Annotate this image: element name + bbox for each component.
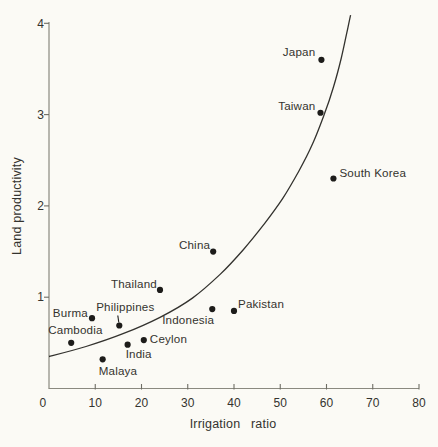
point-label-cambodia: Cambodia bbox=[48, 323, 103, 336]
y-axis-title: Land productivity bbox=[10, 131, 26, 281]
y-tick-label: 2 bbox=[37, 199, 44, 213]
point-label-thailand: Thailand bbox=[111, 277, 157, 290]
x-tick-label: 70 bbox=[366, 396, 380, 410]
data-point-thailand bbox=[157, 287, 163, 293]
data-point-cambodia bbox=[68, 340, 74, 346]
x-tick-label: 30 bbox=[181, 396, 195, 410]
point-label-ceylon: Ceylon bbox=[150, 332, 187, 345]
x-axis-title: Irrigation ratio bbox=[133, 417, 333, 433]
x-tick-label: 80 bbox=[412, 396, 426, 410]
data-point-burma bbox=[89, 315, 95, 321]
data-point-ceylon bbox=[141, 337, 147, 343]
data-point-japan bbox=[318, 57, 324, 63]
point-label-india: India bbox=[126, 347, 152, 360]
point-label-indonesia: Indonesia bbox=[162, 313, 214, 326]
y-tick-label: 3 bbox=[37, 108, 44, 122]
point-label-japan: Japan bbox=[283, 45, 316, 58]
data-point-taiwan bbox=[317, 110, 323, 116]
leader-line-philippines bbox=[118, 316, 119, 323]
point-label-philippines: Philippines bbox=[96, 300, 154, 313]
point-label-malaya: Malaya bbox=[99, 364, 138, 377]
data-point-south-korea bbox=[330, 175, 336, 181]
data-point-indonesia bbox=[209, 306, 215, 312]
y-tick-label: 1 bbox=[37, 290, 44, 304]
point-label-burma: Burma bbox=[53, 306, 88, 319]
x-tick-label: 50 bbox=[273, 396, 287, 410]
scatter-plot: 123401020304050607080JapanTaiwanSouth Ko… bbox=[0, 0, 438, 447]
x-tick-label: 0 bbox=[40, 396, 47, 410]
x-tick-label: 10 bbox=[88, 396, 102, 410]
point-label-taiwan: Taiwan bbox=[278, 99, 315, 112]
point-label-pakistan: Pakistan bbox=[238, 297, 284, 310]
point-label-china: China bbox=[179, 238, 211, 251]
x-tick-label: 20 bbox=[135, 396, 149, 410]
data-point-china bbox=[210, 248, 216, 254]
data-point-pakistan bbox=[231, 308, 237, 314]
y-tick-label: 4 bbox=[37, 17, 44, 31]
data-point-philippines bbox=[116, 322, 122, 328]
data-point-malaya bbox=[100, 356, 106, 362]
scatter-figure: 123401020304050607080JapanTaiwanSouth Ko… bbox=[0, 0, 438, 447]
fitted-curve bbox=[49, 15, 351, 356]
x-tick-label: 40 bbox=[227, 396, 241, 410]
point-label-south-korea: South Korea bbox=[339, 166, 406, 179]
x-tick-label: 60 bbox=[320, 396, 334, 410]
